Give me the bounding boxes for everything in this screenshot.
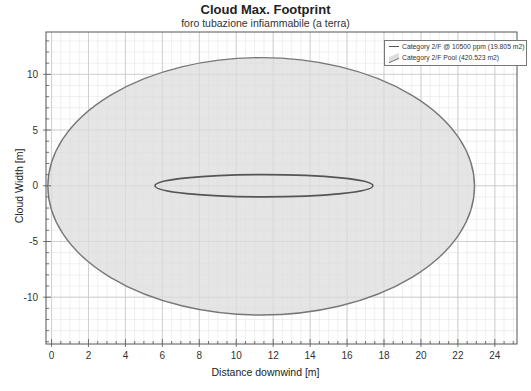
pool-footprint-area: [48, 58, 475, 315]
legend-label: Category 2/F Pool (420.523 m2): [402, 54, 499, 61]
legend-item-cloud: Category 2/F @ 10500 ppm (19.805 m2): [385, 41, 526, 52]
y-tick-label: 5: [32, 125, 38, 136]
legend-label: Category 2/F @ 10500 ppm (19.805 m2): [402, 43, 525, 50]
x-tick-label: 4: [123, 350, 129, 361]
x-axis-label: Distance downwind [m]: [0, 366, 531, 378]
x-tick-label: 18: [378, 350, 390, 361]
x-tick-label: 24: [489, 350, 501, 361]
x-tick-label: 2: [86, 350, 92, 361]
x-tick-label: 8: [197, 350, 203, 361]
x-tick-label: 12: [268, 350, 280, 361]
x-tick-label: 10: [231, 350, 243, 361]
legend-item-pool: Category 2/F Pool (420.523 m2): [385, 52, 526, 63]
series-layer: [48, 58, 475, 315]
line-swatch-icon: [389, 46, 399, 47]
y-tick-label: 10: [27, 69, 39, 80]
x-tick-label: 6: [160, 350, 166, 361]
x-tick-label: 20: [415, 350, 427, 361]
x-tick-label: 14: [305, 350, 317, 361]
y-tick-label: -5: [29, 236, 38, 247]
x-tick-label: 0: [49, 350, 55, 361]
legend: Category 2/F @ 10500 ppm (19.805 m2) Cat…: [384, 40, 527, 66]
area-swatch-icon: [389, 52, 399, 63]
y-tick-label: 0: [32, 180, 38, 191]
x-tick-label: 22: [452, 350, 464, 361]
x-tick-label: 16: [342, 350, 354, 361]
y-tick-label: -10: [24, 292, 39, 303]
y-axis-label: Cloud Width [m]: [13, 149, 25, 224]
